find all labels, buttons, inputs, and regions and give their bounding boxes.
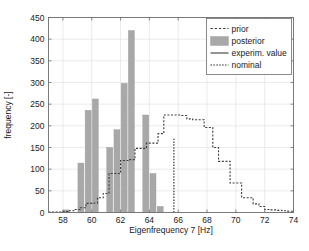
y-tick-label: 450 bbox=[30, 13, 44, 23]
legend-swatch-posterior bbox=[211, 37, 229, 46]
histogram-bar bbox=[121, 83, 127, 212]
x-tick-label: 70 bbox=[231, 215, 241, 225]
histogram-bar bbox=[150, 174, 156, 213]
y-tick-label: 250 bbox=[30, 99, 44, 109]
legend-label-posterior: posterior bbox=[232, 36, 265, 46]
y-tick-label: 0 bbox=[40, 208, 45, 218]
histogram-bar bbox=[128, 31, 134, 213]
histogram-chart: 5860626466687072740501001502002503003504… bbox=[0, 0, 309, 251]
x-tick-label: 62 bbox=[116, 215, 126, 225]
legend-label-nominal: nominal bbox=[232, 60, 262, 70]
histogram-bar bbox=[85, 110, 91, 212]
histogram-bar bbox=[143, 115, 149, 213]
y-tick-label: 100 bbox=[30, 164, 44, 174]
histogram-bar bbox=[92, 99, 98, 213]
legend-label-prior: prior bbox=[232, 24, 249, 34]
x-tick-label: 64 bbox=[145, 215, 155, 225]
histogram-bar bbox=[157, 206, 163, 212]
y-axis-title: frequency [-] bbox=[3, 91, 13, 138]
x-tick-label: 60 bbox=[87, 215, 97, 225]
histogram-bar bbox=[114, 130, 120, 213]
y-tick-label: 50 bbox=[35, 186, 45, 196]
y-tick-label: 350 bbox=[30, 56, 44, 66]
x-tick-label: 72 bbox=[260, 215, 270, 225]
histogram-bar bbox=[78, 163, 84, 212]
legend-label-experim-value: experim. value bbox=[232, 48, 288, 58]
x-axis-title: Eigenfrequency 7 [Hz] bbox=[129, 225, 213, 235]
histogram-bar bbox=[107, 148, 113, 213]
y-tick-label: 300 bbox=[30, 78, 44, 88]
x-tick-label: 66 bbox=[173, 215, 183, 225]
y-tick-label: 400 bbox=[30, 34, 44, 44]
x-tick-label: 74 bbox=[289, 215, 299, 225]
y-tick-label: 150 bbox=[30, 143, 44, 153]
x-tick-label: 68 bbox=[202, 215, 212, 225]
figure-container: 5860626466687072740501001502002503003504… bbox=[0, 0, 309, 251]
x-tick-label: 58 bbox=[58, 215, 68, 225]
y-tick-label: 200 bbox=[30, 121, 44, 131]
